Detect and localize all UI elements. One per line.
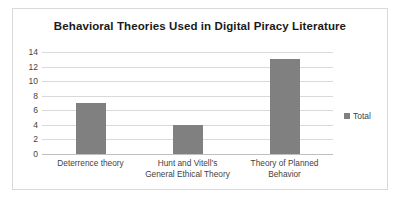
chart-legend: Total	[344, 112, 371, 121]
y-axis-tick-label: 12	[0, 62, 38, 71]
y-axis-tick-label: 0	[0, 150, 38, 159]
bar	[76, 103, 106, 154]
y-axis-tick-labels: 14121086420	[0, 52, 38, 154]
bar	[173, 125, 203, 154]
x-axis-category-label: Deterrence theory	[42, 158, 139, 169]
x-axis-category-label: Theory of PlannedBehavior	[236, 158, 333, 180]
x-axis-label-line: Theory of Planned	[236, 158, 333, 169]
plot-area	[42, 52, 333, 154]
y-axis-tick-label: 8	[0, 91, 38, 100]
y-axis-tick-label: 10	[0, 77, 38, 86]
chart-container: Behavioral Theories Used in Digital Pira…	[0, 0, 399, 207]
x-axis-label-line: Behavior	[236, 169, 333, 180]
y-axis-tick-label: 2	[0, 135, 38, 144]
legend-label-total: Total	[353, 112, 371, 121]
bar	[270, 59, 300, 154]
chart-title: Behavioral Theories Used in Digital Pira…	[12, 20, 388, 32]
gridline	[42, 52, 333, 53]
x-axis-category-label: Hunt and Vitell’sGeneral Ethical Theory	[139, 158, 236, 180]
x-axis-label-line: Hunt and Vitell’s	[139, 158, 236, 169]
legend-swatch-total	[344, 113, 350, 119]
y-axis-tick-label: 4	[0, 121, 38, 130]
y-axis-tick-label: 6	[0, 106, 38, 115]
y-axis-tick-label: 14	[0, 48, 38, 57]
x-axis-label-line: Deterrence theory	[42, 158, 139, 169]
x-axis-line	[42, 154, 333, 155]
x-axis-category-labels: Deterrence theoryHunt and Vitell’sGenera…	[42, 158, 333, 188]
x-axis-label-line: General Ethical Theory	[139, 169, 236, 180]
